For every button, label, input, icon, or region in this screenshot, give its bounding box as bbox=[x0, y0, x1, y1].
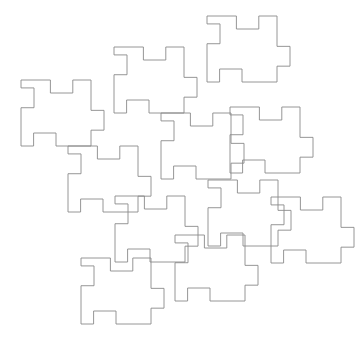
tile-bottom-left bbox=[81, 258, 164, 324]
tile-left-upper bbox=[21, 80, 104, 146]
tile-top-right bbox=[207, 16, 290, 82]
tile-mid-center bbox=[115, 196, 198, 262]
tile-top-middle bbox=[114, 47, 197, 113]
tile-center bbox=[161, 113, 244, 179]
tiling-diagram bbox=[0, 0, 359, 345]
tile-bottom-center bbox=[175, 235, 258, 301]
tiles-group bbox=[21, 16, 354, 324]
figure-canvas bbox=[0, 0, 359, 345]
tile-right-upper bbox=[230, 107, 313, 173]
tile-mid-left bbox=[68, 146, 151, 212]
tile-mid-right bbox=[208, 180, 291, 246]
